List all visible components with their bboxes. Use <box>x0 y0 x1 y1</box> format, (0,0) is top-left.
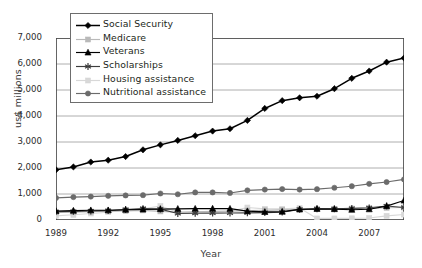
legend-item: Social Security <box>75 17 206 31</box>
legend-item: Nutritional assistance <box>75 85 206 99</box>
x-tick-label: 2007 <box>358 228 380 238</box>
x-tick-label: 1998 <box>202 228 224 238</box>
x-tick-label: 2001 <box>254 228 276 238</box>
legend-item: Scholarships <box>75 58 206 72</box>
y-tick-label: 2,000 <box>6 163 42 172</box>
series-nutritional-assistance <box>56 177 404 201</box>
x-axis-tick-labels: 1989199219951998200120042007 <box>0 224 422 240</box>
legend-marker-square-icon <box>75 31 101 44</box>
chart-figure: us$ millions Year 01,0002,0003,0004,0005… <box>0 0 422 268</box>
legend-marker-star-x-icon <box>75 58 101 71</box>
legend-item: Medicare <box>75 31 206 45</box>
x-tick-label: 1995 <box>149 228 171 238</box>
y-tick-label: 6,000 <box>6 59 42 68</box>
legend-label: Social Security <box>101 18 173 29</box>
chart-legend: Social SecurityMedicareVeteransScholarsh… <box>70 13 213 103</box>
legend-label: Nutritional assistance <box>101 86 206 97</box>
legend-marker-circle-icon <box>75 85 101 98</box>
x-axis-label: Year <box>0 248 422 259</box>
legend-label: Veterans <box>101 45 145 56</box>
legend-marker-triangle-icon <box>75 44 101 57</box>
x-tick-label: 1992 <box>97 228 119 238</box>
y-tick-label: 5,000 <box>6 85 42 94</box>
legend-label: Housing assistance <box>101 73 194 84</box>
x-tick-label: 2004 <box>306 228 328 238</box>
legend-label: Medicare <box>101 32 146 43</box>
y-tick-label: 3,000 <box>6 137 42 146</box>
y-tick-label: 7,000 <box>6 33 42 42</box>
legend-marker-diamond-icon <box>75 17 101 30</box>
legend-marker-square-icon <box>75 72 101 85</box>
legend-item: Housing assistance <box>75 71 206 85</box>
y-tick-label: 4,000 <box>6 111 42 120</box>
y-tick-label: 0 <box>6 215 42 224</box>
y-tick-label: 1,000 <box>6 189 42 198</box>
x-tick-label: 1989 <box>45 228 67 238</box>
legend-label: Scholarships <box>101 59 163 70</box>
legend-item: Veterans <box>75 44 206 58</box>
